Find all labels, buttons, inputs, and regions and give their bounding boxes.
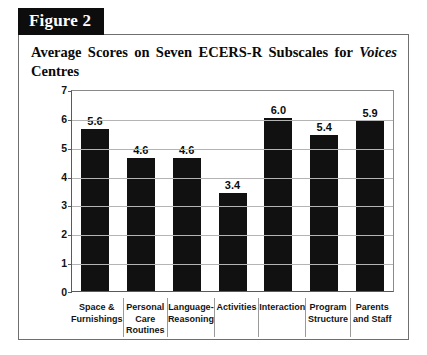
gridline (72, 149, 393, 150)
bar-value-label: 5.4 (317, 121, 332, 133)
gridline (72, 264, 393, 265)
category-axis-labels: Space &FurnishingsPersonalCareRoutinesLa… (71, 298, 394, 337)
bar-slot: 4.6 (164, 91, 210, 291)
category-label-line: Program (306, 302, 349, 314)
bar-slot: 5.6 (72, 91, 118, 291)
y-tick-label: 3 (61, 199, 67, 211)
y-axis-labels: 01234567 (49, 90, 67, 292)
y-axis-tick (68, 149, 72, 150)
bar (219, 193, 247, 291)
gridline (72, 178, 393, 179)
category-label-line: Care (124, 314, 167, 326)
category-label-line: Space & (71, 302, 123, 314)
bar-value-label: 4.6 (179, 144, 194, 156)
gridline (72, 206, 393, 207)
chart-title-emphasis: Voices (359, 44, 397, 60)
category-label: Parentsand Staff (350, 298, 394, 337)
bar-slot: 5.4 (301, 91, 347, 291)
category-label-line: and Staff (351, 314, 394, 326)
category-label: PersonalCareRoutines (123, 298, 167, 337)
bar-value-label: 3.4 (225, 179, 240, 191)
y-tick-label: 2 (61, 228, 67, 240)
y-axis-tick (68, 235, 72, 236)
category-label: ProgramStructure (305, 298, 349, 337)
y-axis-tick (68, 178, 72, 179)
gridline (72, 235, 393, 236)
bar (81, 129, 109, 291)
figure-number-tab: Figure 2 (18, 8, 104, 35)
y-tick-label: 1 (61, 257, 67, 269)
bar-slot: 3.4 (210, 91, 256, 291)
category-label-line: Interaction (259, 302, 305, 314)
bar (310, 135, 338, 291)
bar-value-label: 5.6 (87, 115, 102, 127)
bar-slot: 5.9 (347, 91, 393, 291)
bar-value-label: 5.9 (362, 107, 377, 119)
figure-page: Figure 2 Average Scores on Seven ECERS-R… (0, 0, 427, 355)
y-axis-tick (68, 206, 72, 207)
y-tick-label: 4 (61, 171, 67, 183)
bar-value-label: 6.0 (271, 104, 286, 116)
y-tick-label: 6 (61, 113, 67, 125)
y-tick-label: 7 (61, 84, 67, 96)
category-label-line: Language- (168, 302, 214, 314)
y-axis-tick (68, 292, 72, 293)
chart-title: Average Scores on Seven ECERS-R Subscale… (31, 43, 397, 81)
bar-series: 5.64.64.63.46.05.45.9 (72, 91, 393, 291)
bar-value-label: 4.6 (133, 144, 148, 156)
bar-slot: 6.0 (255, 91, 301, 291)
category-label-line: Routines (124, 325, 167, 337)
bar-slot: 4.6 (118, 91, 164, 291)
category-label: Interaction (258, 298, 305, 337)
category-label-line: Structure (306, 314, 349, 326)
category-label-line: Personal (124, 302, 167, 314)
category-label-line: Reasoning (168, 314, 214, 326)
plot-box: 5.64.64.63.46.05.45.9 (71, 90, 394, 292)
y-axis-tick (68, 120, 72, 121)
y-axis-tick (68, 91, 72, 92)
gridline (72, 120, 393, 121)
figure-panel: Average Scores on Seven ECERS-R Subscale… (18, 34, 409, 340)
category-label: Space &Furnishings (71, 298, 123, 337)
category-label: Activities (214, 298, 258, 337)
category-label-line: Furnishings (71, 314, 123, 326)
category-label-line: Activities (215, 302, 258, 314)
y-axis-tick (68, 264, 72, 265)
y-tick-label: 5 (61, 142, 67, 154)
category-label-line: Parents (351, 302, 394, 314)
chart-title-part2: Centres (31, 63, 79, 79)
plot-area: 01234567 5.64.64.63.46.05.45.9 (49, 90, 394, 298)
chart-title-part1: Average Scores on Seven ECERS-R Subscale… (31, 44, 359, 60)
y-tick-label: 0 (61, 286, 67, 298)
category-label: Language-Reasoning (167, 298, 214, 337)
